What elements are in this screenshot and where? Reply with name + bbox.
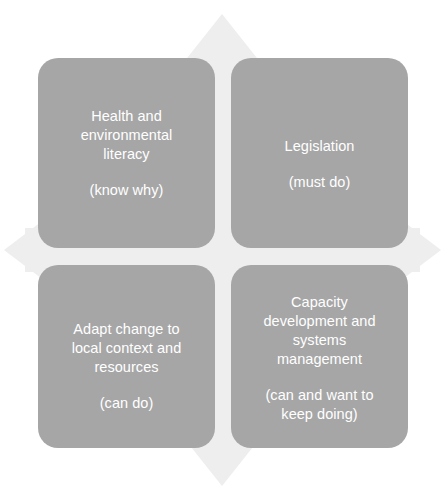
quadrant-bottom-left-subtitle: (can do): [48, 394, 205, 413]
quadrant-grid: Health and environmental literacy (know …: [38, 58, 408, 448]
quadrant-bottom-left[interactable]: Adapt change to local context and resour…: [38, 265, 215, 448]
quadrant-bottom-right-subtitle: (can and want to keep doing): [241, 386, 398, 424]
quadrant-bottom-left-title: Adapt change to local context and resour…: [48, 320, 205, 377]
quadrant-top-left-subtitle: (know why): [48, 181, 205, 200]
diagram-canvas: Health and environmental literacy (know …: [0, 0, 445, 500]
quadrant-top-right[interactable]: Legislation (must do): [231, 58, 408, 248]
quadrant-top-left-title: Health and environmental literacy: [48, 107, 205, 164]
quadrant-top-left[interactable]: Health and environmental literacy (know …: [38, 58, 215, 248]
quadrant-top-right-subtitle: (must do): [241, 173, 398, 192]
quadrant-bottom-right[interactable]: Capacity development and systems managem…: [231, 265, 408, 448]
quadrant-bottom-right-title: Capacity development and systems managem…: [241, 293, 398, 369]
quadrant-top-right-title: Legislation: [241, 137, 398, 156]
